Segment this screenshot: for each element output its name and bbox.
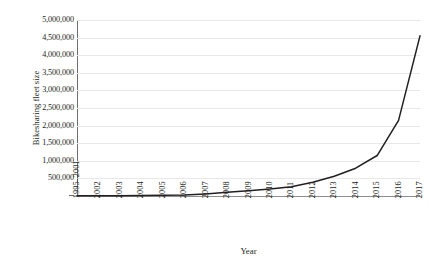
- y-axis-tick-label: 1,000,000: [0, 157, 74, 165]
- y-axis-tick-labels: -500,0001,000,0001,500,0002,000,0002,500…: [0, 20, 74, 196]
- y-axis-tick-label: 2,500,000: [0, 104, 74, 112]
- x-axis-tick-labels: 1995–20012002200320042005200620072008200…: [77, 199, 420, 243]
- y-axis-tick-label: 2,000,000: [0, 121, 74, 129]
- y-axis-tick-label: 3,000,000: [0, 86, 74, 94]
- y-axis-tick-label: 500,000: [0, 174, 74, 182]
- y-axis-tick-label: -: [0, 192, 74, 200]
- y-axis-tick-label: 1,500,000: [0, 139, 74, 147]
- x-axis-title: Year: [77, 246, 420, 256]
- y-axis-tick-label: 4,500,000: [0, 33, 74, 41]
- y-axis-tick-label: 5,000,000: [0, 16, 74, 24]
- y-axis-tick-label: 4,000,000: [0, 51, 74, 59]
- chart-container: Bikesharing fleet size -500,0001,000,000…: [0, 0, 432, 264]
- y-axis-tick-label: 3,500,000: [0, 69, 74, 77]
- line-series-bikesharing-fleet-size: [77, 20, 420, 196]
- plot-area: [77, 20, 420, 196]
